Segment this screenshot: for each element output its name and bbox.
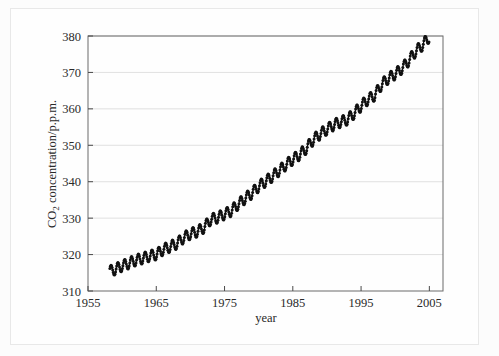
data-point-marker	[165, 244, 168, 247]
data-point-marker	[193, 231, 196, 234]
data-point-marker	[422, 39, 425, 42]
data-point-marker	[190, 232, 193, 235]
data-point-marker	[343, 116, 346, 119]
y-tick-label-350: 350	[62, 139, 81, 153]
x-tick-label-1965: 1965	[144, 296, 169, 310]
data-point-marker	[313, 138, 316, 141]
y-tick-label-340: 340	[62, 175, 81, 189]
data-point-marker	[313, 134, 316, 137]
data-point-marker	[175, 245, 178, 248]
data-point-marker	[237, 202, 240, 205]
data-point-marker	[214, 217, 217, 220]
data-point-marker	[422, 43, 425, 46]
data-point-marker	[347, 117, 350, 120]
figure-container: 310320330340350360370380 195519651975198…	[0, 0, 499, 356]
data-point-marker	[115, 267, 118, 270]
data-point-marker	[231, 209, 234, 212]
data-point-marker	[402, 63, 405, 66]
data-point-marker	[156, 252, 159, 255]
data-point-marker	[272, 174, 275, 177]
data-point-marker	[306, 142, 309, 145]
data-point-marker	[152, 253, 155, 256]
x-axis-tick-labels: 195519651975198519952005	[76, 296, 442, 310]
data-point-marker	[111, 266, 114, 269]
y-axis-title-rest: concentration/p.p.m.	[45, 100, 59, 206]
data-point-marker	[319, 132, 322, 135]
data-point-marker	[210, 221, 213, 224]
data-point-marker	[381, 82, 384, 85]
co2-concentration-chart: 310320330340350360370380 195519651975198…	[0, 0, 499, 356]
data-point-marker	[343, 119, 346, 122]
data-point-marker	[421, 46, 424, 49]
data-point-marker	[400, 72, 403, 75]
data-point-marker	[114, 270, 117, 273]
data-point-marker	[152, 251, 155, 254]
data-point-marker	[367, 101, 370, 104]
data-point-marker	[196, 233, 199, 236]
data-series-co2	[108, 35, 430, 277]
x-tick-label-1995: 1995	[349, 296, 374, 310]
data-point-marker	[145, 253, 148, 256]
data-point-marker	[128, 264, 131, 267]
data-point-marker	[286, 160, 289, 163]
data-point-marker	[155, 256, 158, 259]
data-point-marker	[299, 153, 302, 156]
data-point-marker	[306, 146, 309, 149]
data-point-marker	[387, 80, 390, 83]
data-point-marker	[373, 99, 376, 102]
data-point-marker	[145, 255, 148, 258]
data-point-marker	[265, 179, 268, 182]
data-point-marker	[224, 212, 227, 215]
data-point-marker	[339, 123, 342, 126]
data-point-marker	[354, 111, 357, 114]
y-tick-label-360: 360	[62, 102, 81, 116]
data-point-marker	[285, 163, 288, 166]
data-point-marker	[189, 235, 192, 238]
x-tick-label-2005: 2005	[417, 296, 442, 310]
data-point-marker	[121, 267, 124, 270]
data-point-marker	[148, 257, 151, 260]
data-point-marker	[333, 123, 336, 126]
data-point-marker	[223, 215, 226, 218]
data-point-marker	[285, 166, 288, 169]
data-point-marker	[278, 169, 281, 172]
data-point-marker	[367, 97, 370, 100]
data-point-marker	[354, 108, 357, 111]
data-point-marker	[279, 165, 282, 168]
data-point-marker	[231, 205, 234, 208]
data-point-marker	[347, 114, 350, 117]
data-point-marker	[361, 100, 364, 103]
x-tick-label-1955: 1955	[76, 296, 101, 310]
data-point-marker	[149, 254, 152, 257]
y-axis-title: CO2 concentration/p.p.m.	[45, 100, 61, 228]
data-point-marker	[135, 261, 138, 264]
data-point-marker	[428, 40, 431, 43]
data-point-marker	[217, 216, 220, 219]
data-point-marker	[414, 55, 417, 58]
data-point-marker	[292, 161, 295, 164]
y-axis-tick-labels: 310320330340350360370380	[62, 30, 81, 299]
data-point-marker	[204, 222, 207, 225]
data-point-marker	[375, 89, 378, 92]
data-point-marker	[388, 76, 391, 79]
data-point-marker	[121, 264, 124, 267]
data-point-marker	[203, 225, 206, 228]
y-tick-label-380: 380	[62, 30, 81, 44]
data-point-marker	[162, 251, 165, 254]
data-point-marker	[125, 263, 128, 266]
data-point-marker	[374, 93, 377, 96]
data-point-marker	[408, 62, 411, 65]
data-point-marker	[394, 75, 397, 78]
data-point-marker	[169, 248, 172, 251]
x-tick-label-1985: 1985	[280, 296, 305, 310]
data-point-marker	[139, 257, 142, 260]
data-point-marker	[305, 149, 308, 152]
data-point-marker	[138, 255, 141, 258]
data-point-marker	[264, 182, 267, 185]
data-point-marker	[177, 238, 180, 241]
data-point-marker	[213, 214, 216, 217]
data-point-marker	[311, 143, 314, 146]
data-point-marker	[271, 178, 274, 181]
data-point-marker	[414, 52, 417, 55]
data-point-marker	[257, 187, 260, 190]
